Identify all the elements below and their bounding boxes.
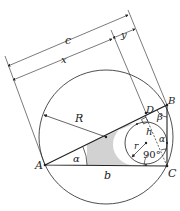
tangent-point-ab <box>136 123 138 125</box>
label-A: A <box>34 159 43 172</box>
point-a <box>44 164 47 167</box>
tangent-point-bc <box>166 142 168 144</box>
label-90: 90° <box>143 149 161 160</box>
geometry-diagram: c x y R A B C D b α β α h r 90° <box>0 0 180 211</box>
label-R: R <box>74 112 83 125</box>
incircle-center <box>145 142 147 144</box>
label-beta: β <box>156 111 163 122</box>
circumcircle-center <box>105 136 107 138</box>
extension-line-d <box>111 30 146 113</box>
label-h: h <box>146 126 152 137</box>
label-y: y <box>120 29 127 40</box>
label-b: b <box>104 169 111 182</box>
label-c: c <box>65 34 71 47</box>
angle-alpha-arc <box>83 147 87 165</box>
extension-line-left <box>5 56 45 165</box>
extension-line-right <box>128 10 167 105</box>
tangent-point-ac <box>145 164 147 166</box>
hatched-region <box>87 124 134 165</box>
label-alpha: α <box>73 153 80 164</box>
label-alpha-c: α <box>159 134 165 144</box>
label-D: D <box>145 104 154 115</box>
label-B: B <box>167 95 175 106</box>
label-r: r <box>134 141 139 151</box>
label-C: C <box>168 167 177 180</box>
label-x: x <box>61 54 67 65</box>
